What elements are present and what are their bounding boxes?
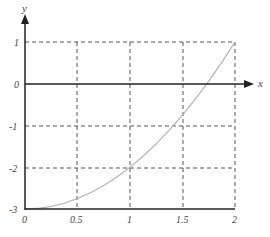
x-tick-1: 1	[127, 214, 132, 225]
y-tick-1: 1	[14, 37, 19, 48]
chart: y x 1 0 -1 -2 -3 0 0.5 1 1.5 2	[0, 0, 270, 237]
y-axis-label: y	[21, 2, 27, 14]
x-tick-0.5: 0.5	[70, 214, 83, 225]
x-tick-2: 2	[232, 214, 237, 225]
y-tick-neg1: -1	[9, 121, 17, 132]
y-tick-0: 0	[14, 79, 19, 90]
x-tick-0: 0	[22, 214, 27, 225]
axes	[25, 20, 246, 210]
y-tick-neg3: -3	[9, 204, 17, 215]
x-tick-1.5: 1.5	[176, 214, 189, 225]
y-tick-neg2: -2	[9, 163, 17, 174]
x-axis-arrow-icon	[244, 80, 254, 88]
y-axis-arrow-icon	[21, 14, 29, 24]
x-axis-label: x	[257, 77, 263, 89]
grid	[25, 42, 235, 209]
